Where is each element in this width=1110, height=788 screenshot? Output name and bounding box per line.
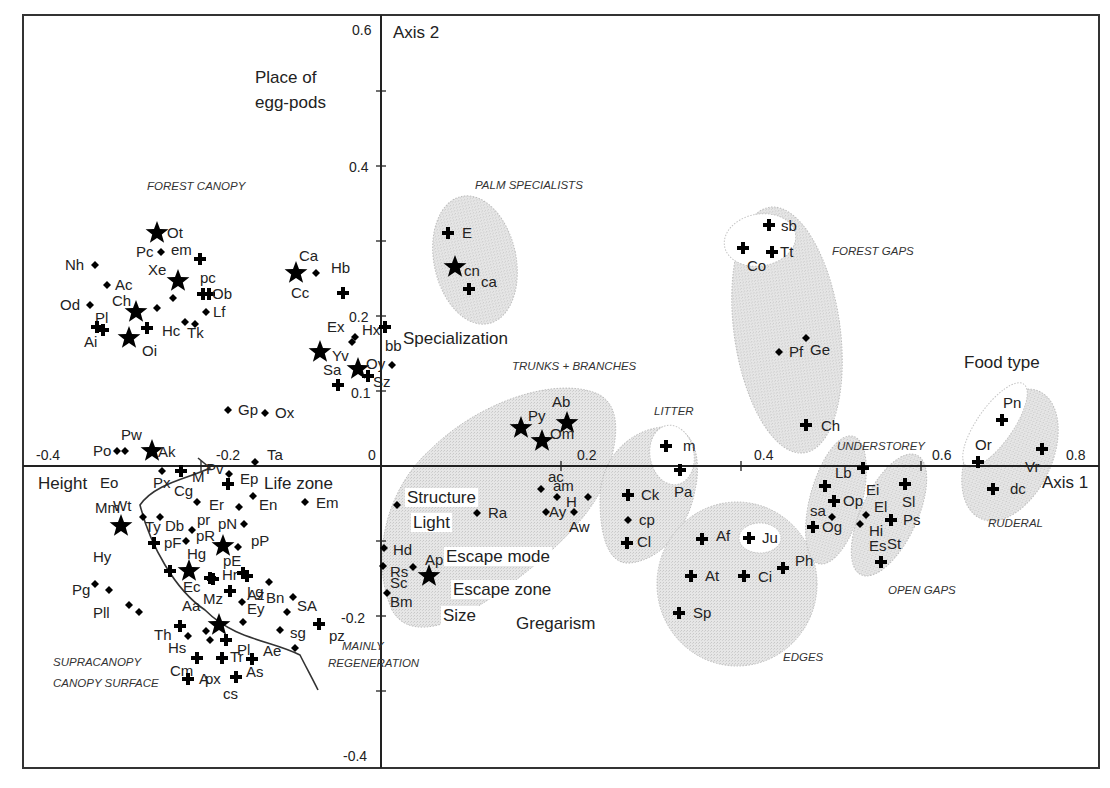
y-axis-title: Axis 2 <box>393 23 439 42</box>
data-point: En <box>249 492 277 513</box>
star-marker-icon <box>110 514 133 536</box>
point-label: Tt <box>780 243 794 260</box>
diamond-marker-icon <box>91 261 99 269</box>
point-label: Ot <box>167 224 184 241</box>
point-label: Em <box>316 494 339 511</box>
svg-text:Height: Height <box>38 474 87 493</box>
habitat-label: EDGES <box>783 651 824 663</box>
point-label: Op <box>843 492 863 509</box>
data-point: Nh <box>65 256 99 273</box>
data-point: Ch <box>112 292 147 322</box>
data-point: Od <box>60 296 94 313</box>
point-label: Lf <box>213 303 226 320</box>
data-point <box>135 608 143 616</box>
data-point <box>153 304 161 312</box>
point-label: Nh <box>65 256 84 273</box>
data-point: Db <box>165 517 196 534</box>
cross-marker-icon <box>222 478 234 490</box>
data-point: Er <box>209 496 243 513</box>
point-label: Ay <box>549 503 567 520</box>
variable-label: egg-pods <box>253 93 328 112</box>
habitat-label: RUDERAL <box>988 517 1043 529</box>
diamond-marker-icon <box>169 294 177 302</box>
point-label: dc <box>1010 480 1026 497</box>
point-label: Om <box>550 425 574 442</box>
point-label: E <box>462 224 472 241</box>
diamond-marker-icon <box>388 361 396 369</box>
data-point: sg <box>276 624 306 641</box>
point-label: pF <box>164 534 182 551</box>
diamond-marker-icon <box>182 537 190 545</box>
svg-text:Life zone: Life zone <box>264 474 333 493</box>
point-label: em <box>171 241 192 258</box>
data-point: pF <box>148 534 182 551</box>
point-label: ca <box>481 273 498 290</box>
point-label: pz <box>329 627 345 644</box>
point-label: Pg <box>72 581 90 598</box>
point-label: am <box>553 477 574 494</box>
point-label: Ex <box>327 318 345 335</box>
habitat-label: TRUNKS + BRANCHES <box>512 360 637 372</box>
data-point: em <box>171 241 206 265</box>
variable-label: Specialization <box>401 329 510 348</box>
point-label: px <box>205 670 221 687</box>
diamond-marker-icon <box>261 409 269 417</box>
diamond-marker-icon <box>283 608 291 616</box>
data-point: cs <box>223 685 238 702</box>
diamond-marker-icon <box>113 447 121 455</box>
data-point: Mz <box>203 585 236 607</box>
diamond-marker-icon <box>153 304 161 312</box>
point-label: Ch <box>821 417 840 434</box>
point-label: Db <box>165 517 184 534</box>
data-point: Em <box>301 494 339 511</box>
data-point: Ta <box>251 446 284 466</box>
data-point: Lf <box>202 303 226 320</box>
data-point: pN <box>218 515 248 532</box>
diamond-marker-icon <box>249 492 257 500</box>
point-label: Bm <box>390 593 413 610</box>
habitat-label: PALM SPECIALISTS <box>475 179 583 191</box>
data-point: Cg <box>174 482 201 506</box>
variable-label: Food type <box>962 353 1042 372</box>
point-label: Ra <box>488 504 508 521</box>
data-point: Oi <box>118 326 157 359</box>
y-tick-label: -0.4 <box>343 748 367 764</box>
point-label: Ep <box>240 470 258 487</box>
point-label: Sp <box>693 604 711 621</box>
data-point: Hg <box>178 545 207 581</box>
data-point: Bm <box>390 593 413 610</box>
point-label: Ei <box>866 481 879 498</box>
cross-marker-icon <box>220 634 232 646</box>
diamond-marker-icon <box>135 608 143 616</box>
diamond-marker-icon <box>91 580 99 588</box>
data-point: Pll <box>93 601 133 621</box>
point-label: Cl <box>637 533 651 550</box>
point-label: At <box>705 567 720 584</box>
point-label: sb <box>781 217 797 234</box>
data-point: Ox <box>261 404 295 421</box>
svg-text:Place of: Place of <box>255 68 317 87</box>
point-label: Hx <box>362 321 381 338</box>
cross-marker-icon <box>313 618 325 630</box>
diamond-marker-icon <box>276 626 284 634</box>
point-label: H <box>566 493 577 510</box>
diamond-marker-icon <box>202 308 210 316</box>
x-tick-label: -0.4 <box>36 447 60 463</box>
diamond-marker-icon <box>289 593 297 601</box>
star-marker-icon <box>118 326 141 348</box>
point-label: Ab <box>552 393 570 410</box>
point-label: Lb <box>835 464 852 481</box>
point-label: M <box>192 468 205 485</box>
point-label: Ey <box>247 600 265 617</box>
data-point: Hc <box>162 318 189 339</box>
data-point: Ac <box>103 276 133 293</box>
point-label: Af <box>716 527 731 544</box>
diamond-marker-icon <box>125 601 133 609</box>
point-label: Ai <box>84 333 97 350</box>
point-label: Ob <box>212 285 232 302</box>
variable-label: Light <box>411 513 452 532</box>
cross-marker-icon <box>332 379 344 391</box>
data-point <box>169 294 177 302</box>
habitat-label: REGENERATION <box>328 657 420 669</box>
point-label: As <box>246 663 264 680</box>
